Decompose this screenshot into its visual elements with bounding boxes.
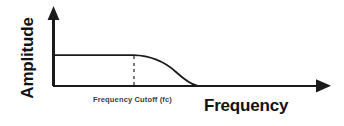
y-axis-title: Amplitude (17, 13, 39, 103)
x-axis-title: Frequency (204, 96, 288, 115)
y-axis-arrowhead-icon (48, 6, 60, 20)
plot-area (0, 0, 344, 126)
x-axis-arrowhead-icon (316, 79, 331, 92)
cutoff-frequency-label: Frequency Cutoff (fc) (93, 95, 172, 104)
filter-response-curve (54, 55, 197, 85)
low-pass-filter-figure: Amplitude Frequency Frequency Cutoff (fc… (0, 0, 344, 126)
